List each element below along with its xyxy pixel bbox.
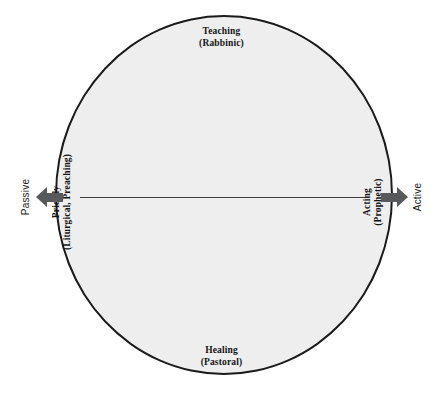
- pole-left-qualifier: (Liturgical, Preaching): [62, 153, 73, 249]
- horizontal-axis-line: [80, 197, 369, 198]
- axis-label-active: Active: [411, 152, 425, 242]
- pole-right-qualifier: (Prophetic): [373, 178, 384, 225]
- passive-arrow-shaft: [47, 193, 63, 202]
- pole-left-term: Priestly: [51, 185, 62, 217]
- pole-top-qualifier: (Rabbinic): [0, 38, 443, 50]
- diagram-canvas: Teaching (Rabbinic) Healing (Pastoral) P…: [0, 0, 443, 393]
- active-arrow-shaft: [381, 193, 397, 202]
- pole-top-term: Teaching: [0, 26, 443, 38]
- pole-label-right: Acting (Prophetic): [362, 127, 384, 277]
- axis-label-passive: Passive: [19, 152, 33, 242]
- passive-arrow-head: [36, 187, 47, 207]
- pole-bottom-term: Healing: [0, 345, 443, 357]
- active-arrow-head: [397, 187, 408, 207]
- pole-right-term: Acting: [362, 188, 373, 216]
- circle-shape: [55, 15, 393, 375]
- pole-label-left: Priestly (Liturgical, Preaching): [51, 127, 73, 277]
- pole-bottom-qualifier: (Pastoral): [0, 357, 443, 369]
- pole-label-bottom: Healing (Pastoral): [0, 345, 443, 368]
- pole-label-top: Teaching (Rabbinic): [0, 26, 443, 49]
